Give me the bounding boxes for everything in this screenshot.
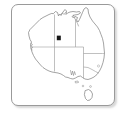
map-canvas[interactable] <box>12 5 115 106</box>
coastline-kangaroo-island <box>75 81 79 83</box>
location-marker[interactable] <box>57 36 61 41</box>
australia-locator-map[interactable]: Australia Australia <box>0 0 126 114</box>
coastline-mainland <box>29 8 105 80</box>
map-frame[interactable]: Australia Australia <box>11 4 115 106</box>
coastline-flinders-island <box>90 86 92 88</box>
coastline-tasmania <box>85 90 93 101</box>
coastline-king-island <box>82 85 84 87</box>
